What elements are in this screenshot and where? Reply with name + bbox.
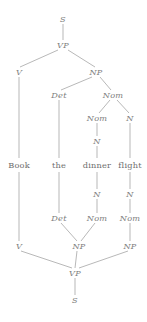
tree-node-label: VP (69, 269, 81, 277)
syntax-tree-diagram: SVPVNPDetNomNomNNBookthedinnerflightNNDe… (0, 0, 147, 322)
tree-edge (79, 251, 128, 268)
tree-leaf-word: dinner (83, 161, 111, 169)
tree-node-label: VP (57, 41, 69, 49)
tree-node-label: NP (123, 242, 136, 250)
tree-node-label: Nom (120, 214, 140, 222)
tree-node-label: N (93, 190, 100, 198)
tree-node-label: S (60, 15, 66, 23)
tree-edge (61, 77, 92, 90)
tree-edge (20, 50, 58, 67)
tree-edge (117, 100, 129, 113)
tree-leaf-word: the (52, 161, 66, 169)
tree-node-label: N (93, 137, 100, 145)
tree-node-label: Nom (103, 91, 123, 99)
tree-edge (81, 223, 95, 241)
tree-leaf-word: Book (8, 161, 30, 169)
tree-node-label: N (126, 190, 133, 198)
tree-node-label: Det (51, 214, 66, 222)
tree-node-label: Det (51, 91, 66, 99)
tree-node-label: Nom (87, 214, 107, 222)
tree-edge (99, 100, 110, 113)
tree-edge (75, 251, 77, 268)
tree-node-label: V (16, 242, 22, 250)
tree-node-label: NP (72, 242, 85, 250)
tree-node-label: V (16, 68, 22, 76)
tree-leaf-word: flight (118, 161, 141, 169)
tree-edge (68, 50, 95, 67)
tree-edge (61, 223, 77, 241)
tree-node-label: N (126, 114, 133, 122)
tree-edge (21, 251, 72, 268)
tree-node-label: NP (89, 68, 102, 76)
tree-node-label: S (72, 296, 78, 304)
tree-node-label: Nom (87, 114, 107, 122)
tree-edge (100, 77, 111, 90)
